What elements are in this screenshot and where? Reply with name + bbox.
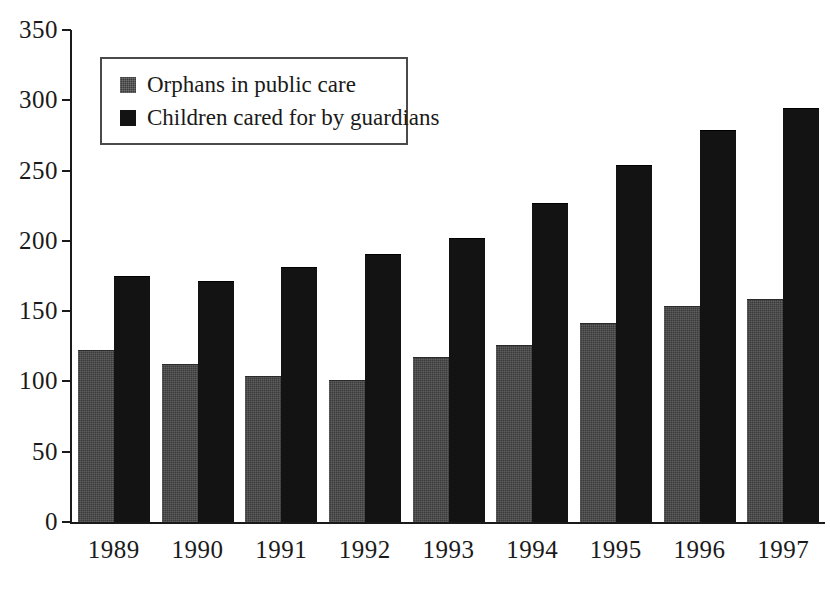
y-axis-tick-label: 300 <box>0 87 58 112</box>
y-axis-tick-label: 350 <box>0 17 58 42</box>
y-axis-tick <box>62 99 71 101</box>
bar-1996-series-0 <box>664 306 700 522</box>
legend-entry-orphans: Orphans in public care <box>120 68 406 101</box>
bar-1994-series-1 <box>532 203 568 522</box>
bar-1991-series-0 <box>245 376 281 522</box>
bar-1993-series-0 <box>413 357 449 522</box>
bar-1994-series-0 <box>496 345 532 522</box>
bar-1997-series-1 <box>783 108 819 522</box>
y-axis-tick-label: 50 <box>0 439 58 464</box>
x-axis-line <box>70 522 825 524</box>
y-axis-tick <box>62 29 71 31</box>
x-axis-label-1989: 1989 <box>69 536 159 564</box>
bar-1991-series-1 <box>281 267 317 522</box>
legend-entry-guardians: Children cared for by guardians <box>120 101 406 134</box>
y-axis-tick-label-text: 300 <box>6 87 58 112</box>
y-axis-tick <box>62 170 71 172</box>
x-axis-label-1997: 1997 <box>738 536 828 564</box>
y-axis-tick-label: 0 <box>0 509 58 534</box>
y-axis-tick-label-text: 200 <box>6 228 58 253</box>
x-axis-label-1995: 1995 <box>571 536 661 564</box>
bar-1990-series-0 <box>162 364 198 522</box>
bar-1989-series-0 <box>78 350 114 522</box>
x-axis-label-1992: 1992 <box>320 536 410 564</box>
chart-legend: Orphans in public care Children cared fo… <box>100 57 408 145</box>
y-axis-tick-label: 100 <box>0 368 58 393</box>
legend-swatch-black-icon <box>120 110 136 126</box>
legend-label-orphans: Orphans in public care <box>147 72 356 97</box>
chart-screenshot: 050100150200250300350 198919901991199219… <box>0 0 830 592</box>
bar-1995-series-0 <box>580 323 616 522</box>
bar-1992-series-1 <box>365 254 401 522</box>
y-axis-tick-label: 150 <box>0 298 58 323</box>
x-axis-label-1996: 1996 <box>655 536 745 564</box>
bar-1996-series-1 <box>700 130 736 522</box>
bar-1989-series-1 <box>114 276 150 522</box>
y-axis-tick-label-text: 50 <box>6 439 58 464</box>
legend-label-guardians: Children cared for by guardians <box>147 105 440 130</box>
y-axis-tick <box>62 310 71 312</box>
x-axis-label-1993: 1993 <box>404 536 494 564</box>
y-axis-tick-label: 200 <box>0 228 58 253</box>
bar-1995-series-1 <box>616 165 652 522</box>
x-axis-label-1991: 1991 <box>236 536 326 564</box>
y-axis-tick-label: 250 <box>0 158 58 183</box>
bar-1997-series-0 <box>747 299 783 522</box>
y-axis-tick <box>62 240 71 242</box>
x-axis-label-1990: 1990 <box>153 536 243 564</box>
y-axis-tick <box>62 380 71 382</box>
bar-1990-series-1 <box>198 281 234 522</box>
legend-swatch-gray-icon <box>120 77 136 93</box>
y-axis-tick-label-text: 0 <box>6 509 58 534</box>
bar-1993-series-1 <box>449 238 485 522</box>
y-axis-tick-label-text: 250 <box>6 158 58 183</box>
bar-1992-series-0 <box>329 380 365 522</box>
y-axis-tick-label-text: 350 <box>6 17 58 42</box>
y-axis-tick <box>62 521 71 523</box>
y-axis-tick-label-text: 150 <box>6 298 58 323</box>
y-axis-tick <box>62 451 71 453</box>
x-axis-label-1994: 1994 <box>487 536 577 564</box>
y-axis-tick-label-text: 100 <box>6 368 58 393</box>
